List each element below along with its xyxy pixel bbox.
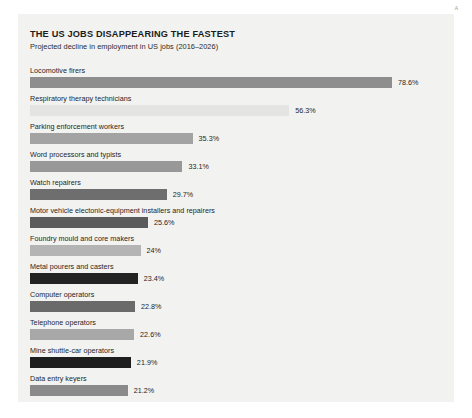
bar-label: Mine shuttle-car operators	[30, 345, 444, 355]
bar-label: Data entry keyers	[30, 373, 444, 383]
bar-list: Locomotive firers78.6%Respiratory therap…	[30, 65, 444, 401]
bar-row: Watch repairers29.7%	[30, 177, 444, 205]
bar-track: 21.9%	[30, 357, 444, 368]
bar-label: Computer operators	[30, 289, 444, 299]
bar-fill	[30, 161, 182, 172]
bar-value-label: 56.3%	[295, 106, 315, 115]
bar-row: Parking enforcement workers35.3%	[30, 121, 444, 149]
bar-row: Metal pourers and casters23.4%	[30, 261, 444, 289]
bar-fill	[30, 245, 141, 256]
bar-fill	[30, 77, 392, 88]
bar-track: 78.6%	[30, 77, 444, 88]
bar-label: Word processors and typists	[30, 149, 444, 159]
bar-track: 22.6%	[30, 329, 444, 340]
bar-value-label: 23.4%	[144, 274, 164, 283]
bar-fill	[30, 385, 128, 396]
bar-fill	[30, 357, 131, 368]
bar-value-label: 21.9%	[137, 358, 157, 367]
bar-row: Mine shuttle-car operators21.9%	[30, 345, 444, 373]
bar-value-label: 22.6%	[140, 330, 160, 339]
bar-track: 35.3%	[30, 133, 444, 144]
bar-label: Locomotive firers	[30, 65, 444, 75]
bar-value-label: 33.1%	[188, 162, 208, 171]
bar-row: Computer operators22.8%	[30, 289, 444, 317]
bar-fill	[30, 329, 134, 340]
bar-row: Motor vehicle electonic-equipment instal…	[30, 205, 444, 233]
bar-value-label: 25.6%	[154, 218, 174, 227]
bar-row: Word processors and typists33.1%	[30, 149, 444, 177]
bar-value-label: 22.8%	[141, 302, 161, 311]
bar-track: 21.2%	[30, 385, 444, 396]
bar-fill	[30, 217, 148, 228]
bar-label: Telephone operators	[30, 317, 444, 327]
bar-label: Metal pourers and casters	[30, 261, 444, 271]
bar-row: Respiratory therapy technicians56.3%	[30, 93, 444, 121]
chart-panel: THE US JOBS DISAPPEARING THE FASTEST Pro…	[18, 14, 454, 402]
bar-track: 23.4%	[30, 273, 444, 284]
corner-mark: A	[455, 6, 458, 11]
bar-value-label: 29.7%	[173, 190, 193, 199]
bar-value-label: 21.2%	[134, 386, 154, 395]
bar-track: 25.6%	[30, 217, 444, 228]
bar-label: Foundry mould and core makers	[30, 233, 444, 243]
bar-fill	[30, 133, 193, 144]
bar-track: 22.8%	[30, 301, 444, 312]
bar-fill	[30, 105, 289, 116]
bar-label: Parking enforcement workers	[30, 121, 444, 131]
bar-fill	[30, 301, 135, 312]
bar-track: 33.1%	[30, 161, 444, 172]
bar-value-label: 24%	[147, 246, 161, 255]
bar-label: Motor vehicle electonic-equipment instal…	[30, 205, 444, 215]
bar-row: Data entry keyers21.2%	[30, 373, 444, 401]
chart-title: THE US JOBS DISAPPEARING THE FASTEST	[30, 28, 444, 40]
bar-label: Watch repairers	[30, 177, 444, 187]
bar-fill	[30, 273, 138, 284]
bar-track: 29.7%	[30, 189, 444, 200]
bar-track: 56.3%	[30, 105, 444, 116]
bar-row: Telephone operators22.6%	[30, 317, 444, 345]
chart-subtitle: Projected decline in employment in US jo…	[30, 42, 444, 52]
bar-value-label: 78.6%	[398, 78, 418, 87]
bar-value-label: 35.3%	[199, 134, 219, 143]
bar-row: Locomotive firers78.6%	[30, 65, 444, 93]
bar-track: 24%	[30, 245, 444, 256]
bar-row: Foundry mould and core makers24%	[30, 233, 444, 261]
bar-label: Respiratory therapy technicians	[30, 93, 444, 103]
bar-fill	[30, 189, 167, 200]
chart-page: A THE US JOBS DISAPPEARING THE FASTEST P…	[0, 0, 472, 418]
